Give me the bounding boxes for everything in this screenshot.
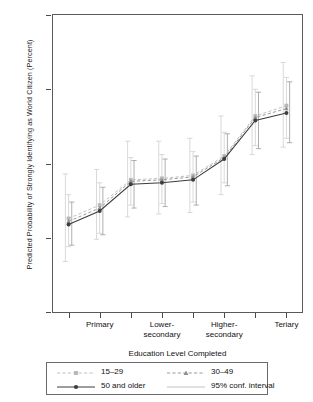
- x-axis-tick-label: Lower-secondary: [130, 320, 194, 339]
- data-point-marker: [67, 222, 71, 226]
- y-axis-tick-mark: [46, 89, 51, 90]
- legend-label: 30–49: [211, 367, 233, 376]
- legend-key-none-icon: [165, 380, 207, 394]
- data-point-marker: [253, 118, 257, 122]
- y-axis-tick-mark: [46, 238, 51, 239]
- x-axis-title: Education Level Completed: [52, 349, 303, 358]
- legend-label: 95% conf. interval: [211, 381, 275, 390]
- x-axis-tick-label: Teriary: [254, 320, 313, 330]
- x-axis-tick-label: Higher-secondary: [192, 320, 256, 339]
- legend-key-triangle-icon: [165, 366, 207, 380]
- legend-label: 50 and older: [101, 381, 145, 390]
- legend-key-square-icon: [55, 366, 97, 380]
- x-axis-tick-mark: [131, 313, 132, 318]
- y-axis-tick-mark: [46, 312, 51, 313]
- y-axis-tick-mark: [46, 15, 51, 16]
- legend-item: 95% conf. interval: [165, 380, 273, 394]
- data-point-marker: [191, 178, 195, 182]
- y-axis-tick-mark: [46, 164, 51, 165]
- data-point-marker: [98, 209, 102, 213]
- data-point-marker: [284, 111, 288, 115]
- x-axis-tick-mark: [162, 313, 163, 318]
- x-axis-tick-mark: [193, 313, 194, 318]
- x-axis-tick-label: Primary: [68, 320, 132, 330]
- x-axis-tick-mark: [69, 313, 70, 318]
- legend-item: 15–29: [55, 366, 163, 380]
- legend-key-circle-icon: [55, 380, 97, 394]
- legend-item: 50 and older: [55, 380, 163, 394]
- chart-canvas: [53, 15, 302, 312]
- data-point-marker: [129, 182, 133, 186]
- plot-area: [52, 14, 303, 313]
- y-axis-title: Predicted Probability of Strongly Identi…: [25, 30, 34, 280]
- legend-label: 15–29: [101, 367, 123, 376]
- x-axis-tick-mark: [286, 313, 287, 318]
- legend-item: 30–49: [165, 366, 273, 380]
- x-axis-tick-mark: [100, 313, 101, 318]
- chart-legend: 15–2930–4950 and older95% conf. interval: [46, 362, 268, 395]
- data-point-marker: [160, 181, 164, 185]
- chart-figure: Predicted Probability of Strongly Identi…: [0, 0, 313, 402]
- x-axis-tick-mark: [255, 313, 256, 318]
- data-point-marker: [222, 157, 226, 161]
- x-axis-tick-mark: [224, 313, 225, 318]
- series-line: [69, 113, 287, 224]
